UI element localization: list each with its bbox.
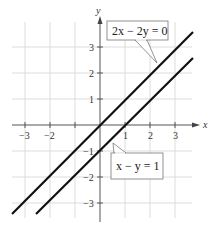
equation-label-1: 2x − 2y = 0 <box>112 24 168 38</box>
y-axis-label: y <box>95 5 101 16</box>
y-tick-label: 2 <box>89 68 94 79</box>
x-axis-arrow-icon <box>192 123 200 128</box>
y-axis-arrow-icon <box>98 16 103 24</box>
y-tick-label: 1 <box>89 94 94 105</box>
y-tick-label: 3 <box>89 42 94 53</box>
x-tick-label: 2 <box>148 130 153 141</box>
x-axis-label: x <box>202 119 208 130</box>
x-tick-label: 3 <box>173 130 178 141</box>
line-2x-minus-2y-eq-0 <box>12 32 193 214</box>
x-tick-label: 1 <box>123 130 128 141</box>
x-tick-label: −3 <box>19 130 30 141</box>
callout-eq1: 2x − 2y = 0 <box>107 21 168 63</box>
line-x-minus-y-eq-1 <box>36 58 193 214</box>
y-tick-label: −1 <box>83 146 94 157</box>
y-tick-label: −3 <box>83 198 94 209</box>
graph: x y −3 −2 1 2 3 3 2 1 −1 −2 −3 2x − 2y =… <box>0 0 219 228</box>
callout-eq2: x − y = 1 <box>111 143 163 179</box>
x-tick-label: −2 <box>44 130 55 141</box>
grid <box>12 22 192 218</box>
equation-label-2: x − y = 1 <box>116 159 160 173</box>
y-tick-label: −2 <box>83 172 94 183</box>
